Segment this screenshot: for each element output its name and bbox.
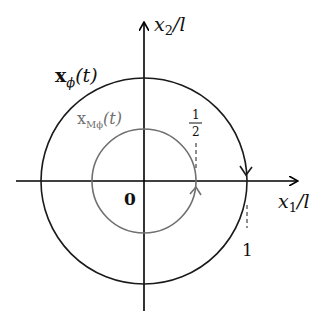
phase-diagram: x2/l x1/l 0 xϕ(t) xMϕ(t) 1 2 1 [0,0,323,316]
unit-radius-label: 1 [242,240,253,260]
x1-axis-label: x1/l [278,190,309,215]
x2-axis-label: x2/l [154,13,185,38]
svg-text:1: 1 [192,108,200,122]
inner-curve-label: xMϕ(t) [77,109,122,130]
origin-label: 0 [124,189,136,209]
svg-text:2: 2 [192,125,200,139]
half-radius-label: 1 2 [189,108,202,139]
outer-curve-label: xϕ(t) [55,64,98,90]
